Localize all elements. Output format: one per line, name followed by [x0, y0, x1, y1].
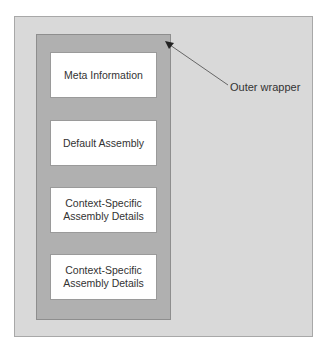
arrow-icon	[0, 0, 328, 351]
outer-wrapper-label: Outer wrapper	[230, 81, 300, 93]
